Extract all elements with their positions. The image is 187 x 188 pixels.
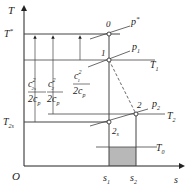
svg-text:c22: c22	[48, 77, 55, 91]
svg-text:2cp: 2cp	[73, 85, 85, 98]
actual-process-line	[109, 60, 136, 114]
t1-label: T1	[150, 59, 159, 72]
t2-label: T2	[167, 110, 176, 123]
p1-label: p1	[131, 41, 140, 54]
point-2-label: 2	[137, 100, 142, 110]
svg-text:c21: c21	[74, 69, 81, 83]
t0-label: T0	[156, 142, 165, 155]
x-axis-label: s	[174, 174, 178, 185]
point-2s-label: 2s	[112, 126, 120, 137]
c1-fraction: c21 2cp	[73, 69, 90, 98]
t2s-label: T2s	[3, 116, 15, 129]
p2-isobar	[90, 109, 148, 126]
point-1	[107, 58, 111, 62]
s1-label: s1	[103, 172, 110, 185]
origin-label: O	[12, 170, 20, 182]
point-2s	[107, 120, 111, 124]
point-1-label: 1	[101, 48, 106, 58]
s2-label: s2	[130, 172, 137, 185]
p2-label: p2	[151, 98, 160, 111]
c2s-fraction: c22s 2cp	[28, 77, 46, 106]
p-star-label: p*	[130, 15, 140, 27]
point-0-label: 0	[106, 19, 111, 29]
y-axis-label: T	[8, 4, 15, 16]
t-star-label: T*	[4, 27, 14, 39]
point-2	[134, 112, 138, 116]
svg-text:2cp: 2cp	[28, 93, 40, 106]
point-0	[107, 32, 111, 36]
c2-fraction: c22 2cp	[47, 77, 63, 106]
ts-diagram: T s O T* T2s s1 s2 0 1 2 2s p* p1 T1 p2 …	[0, 0, 187, 188]
shaded-area	[109, 147, 136, 166]
